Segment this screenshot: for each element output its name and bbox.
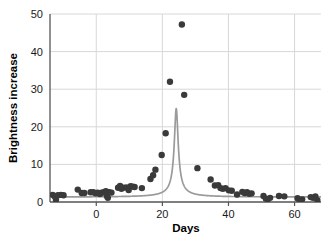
data-point — [267, 195, 273, 201]
x-tick-label: 0 — [93, 208, 99, 220]
data-point — [207, 176, 213, 182]
data-point — [179, 21, 185, 27]
y-tick-label: 50 — [31, 8, 43, 20]
data-point — [81, 190, 87, 196]
data-point — [131, 184, 137, 190]
data-point — [248, 190, 254, 196]
data-point — [281, 193, 287, 199]
y-tick-label: 10 — [31, 158, 43, 170]
chart-figure: 01020304050 0204060 Brightness increase … — [0, 0, 335, 241]
data-point — [139, 185, 145, 191]
data-point — [159, 152, 165, 158]
light-curve-chart: 01020304050 0204060 Brightness increase … — [0, 0, 335, 241]
data-point — [108, 189, 114, 195]
x-tick-label: 60 — [288, 208, 300, 220]
y-tick-label: 20 — [31, 121, 43, 133]
data-point — [150, 172, 156, 178]
x-tick-label: 40 — [222, 208, 234, 220]
data-point — [162, 130, 168, 136]
data-point — [105, 195, 111, 201]
y-tick-label: 40 — [31, 46, 43, 58]
y-tick-label: 0 — [37, 196, 43, 208]
x-tick-label: 20 — [156, 208, 168, 220]
data-point — [194, 165, 200, 171]
data-point — [167, 78, 173, 84]
data-point — [60, 192, 66, 198]
y-tick-label: 30 — [31, 83, 43, 95]
x-axis-title: Days — [172, 222, 200, 234]
data-point — [152, 166, 158, 172]
data-point — [229, 188, 235, 194]
data-point — [181, 92, 187, 98]
y-axis-title: Brightness increase — [7, 53, 19, 163]
data-point — [299, 196, 305, 202]
